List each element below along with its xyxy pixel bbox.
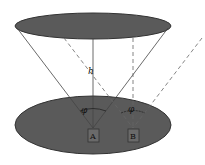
angle-label-b: φ [128,104,135,114]
box-a-label: A [89,132,96,141]
top-ellipse [15,13,171,39]
height-label: h [88,66,94,76]
angle-label-a: φ [81,105,88,115]
cone-diagram: h φ φ A B [0,0,205,165]
box-b-label: B [130,132,136,141]
